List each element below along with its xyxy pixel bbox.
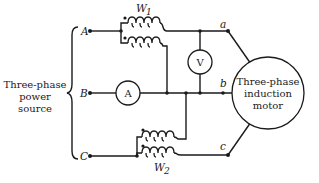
line-b [90, 91, 232, 95]
voltmeter-label: V [195, 57, 204, 68]
wattmeter1-subscript: 1 [146, 7, 152, 17]
terminal-label-B: B [79, 87, 88, 99]
feed-c [228, 122, 251, 155]
source-brace [67, 27, 78, 159]
terminal-label-A: A [80, 25, 89, 37]
wattmeter1-current-coil [123, 16, 228, 31]
source-label-line3: source [18, 103, 52, 114]
wattmeter2-potential-coil [141, 93, 186, 141]
source-label-line1: Three-phase [4, 79, 67, 90]
terminal-label-b: b [220, 77, 227, 89]
terminal-label-c: c [220, 140, 226, 152]
terminal-label-a: a [220, 18, 226, 30]
line-c [90, 137, 142, 158]
ammeter: A [116, 81, 140, 105]
circuit-diagram: Three-phase power source A B C W 1 [0, 0, 319, 183]
line-a [90, 23, 128, 43]
source-label-line2: power [19, 91, 51, 102]
terminal-label-C: C [80, 150, 88, 162]
ammeter-label: A [123, 88, 132, 99]
wattmeter2-current-coil [141, 144, 228, 157]
motor-label-line2: induction [244, 88, 292, 99]
induction-motor: Three-phase induction motor [232, 57, 304, 129]
motor-label-line3: motor [253, 100, 284, 111]
motor-label-line1: Three-phase [237, 76, 300, 87]
voltmeter: V [188, 29, 212, 93]
feed-a [228, 31, 251, 64]
wattmeter2-subscript: 2 [163, 166, 170, 176]
